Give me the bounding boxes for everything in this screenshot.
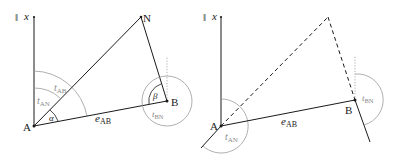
left-label-tAN: tAN <box>37 95 50 108</box>
right-label-eAB: eAB <box>281 115 297 129</box>
left-label-alpha: α <box>49 113 54 123</box>
left-label-N: N <box>143 12 151 24</box>
left-figure: ‖ x A N B tAB tAN <box>15 10 192 133</box>
left-axis-label: x <box>23 10 29 22</box>
left-label-B: B <box>171 96 178 108</box>
right-label-A: A <box>210 120 218 132</box>
right-label-B: B <box>345 104 352 116</box>
right-point-A <box>220 125 223 128</box>
right-axis-parallel-marker: ‖ <box>203 11 206 23</box>
left-label-tAB: tAB <box>54 82 67 95</box>
left-point-N <box>140 16 143 19</box>
right-label-tAN: tAN <box>225 131 238 144</box>
left-point-A <box>33 125 36 128</box>
left-line-AN <box>34 17 141 126</box>
right-x-axis-tip <box>220 16 222 18</box>
diagram-svg: ‖ x A N B tAB tAN <box>0 0 399 161</box>
left-point-B <box>166 100 169 103</box>
right-figure: ‖ x A B tAN eAB <box>201 10 383 153</box>
left-label-beta: β <box>152 91 158 101</box>
right-extension-at-B <box>355 100 370 142</box>
left-axis-parallel-marker: ‖ <box>15 11 18 23</box>
right-label-tBN: tBN <box>362 93 374 104</box>
right-dashed-NB <box>328 17 355 100</box>
left-label-tBN: tBN <box>152 109 164 120</box>
right-point-B <box>354 99 357 102</box>
left-x-axis-tip <box>33 16 35 18</box>
right-dashed-AN <box>221 17 328 126</box>
left-label-eAB: eAB <box>95 112 111 126</box>
diagram-canvas: ‖ x A N B tAB tAN <box>0 0 399 161</box>
left-label-A: A <box>23 121 31 133</box>
right-axis-label: x <box>211 10 217 22</box>
